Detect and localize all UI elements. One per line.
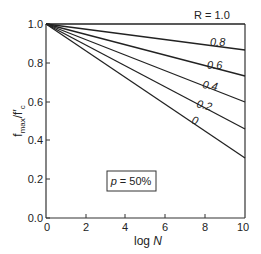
y-tick-label: 0.8	[28, 57, 43, 69]
curve-label-r02: 0.2	[196, 97, 214, 112]
chart: 0.0 0.2 0.4 0.6 0.8 1.0 0 2 4 6 8 10 log…	[0, 0, 261, 254]
x-tick-label: 10	[237, 221, 249, 233]
x-tick-label: 2	[83, 221, 89, 233]
annotation-text: p = 50%	[110, 175, 152, 187]
y-tick-label: 0.0	[28, 212, 43, 224]
y-tick-label: 1.0	[28, 18, 43, 30]
y-tick-label: 0.6	[28, 96, 43, 108]
svg-text:fmax/f′c: fmax/f′c	[11, 105, 27, 136]
x-tick-label: 0	[44, 221, 50, 233]
y-tick-label: 0.2	[28, 173, 43, 185]
x-tick-label: 4	[122, 221, 128, 233]
x-tick-label: 8	[202, 221, 208, 233]
curve-label-r08: 0.8	[210, 36, 226, 48]
y-tick-label: 0.4	[28, 134, 43, 146]
curve-label-r10: R = 1.0	[194, 9, 230, 21]
x-tick-label: 6	[162, 221, 168, 233]
x-axis-title: log N	[134, 234, 162, 248]
curve-label-r06: 0.6	[207, 59, 223, 71]
y-axis-title: fmax/f′c	[11, 105, 27, 136]
curve-label-r04: 0.4	[202, 78, 219, 92]
curve-label-r00: 0	[190, 113, 200, 127]
